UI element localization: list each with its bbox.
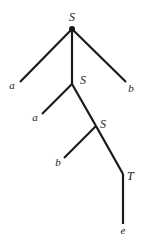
node-label-s1: S bbox=[69, 10, 75, 24]
edge-s2-s3 bbox=[72, 84, 96, 126]
node-label-e1: e bbox=[121, 224, 126, 236]
edge-s1-a1 bbox=[20, 29, 72, 82]
node-label-b2: b bbox=[55, 156, 61, 168]
node-label-a2: a bbox=[32, 111, 38, 123]
node-label-t1: T bbox=[127, 169, 135, 183]
edge-s2-a2 bbox=[42, 84, 72, 114]
edge-s3-b2 bbox=[64, 126, 96, 158]
root-dot bbox=[69, 26, 75, 32]
edge-s3-t1 bbox=[96, 126, 123, 174]
node-label-s3: S bbox=[100, 117, 106, 131]
root-node-dot bbox=[69, 26, 75, 32]
tree-edges bbox=[20, 29, 126, 224]
parse-tree-diagram: SaSbaSbTe bbox=[0, 0, 145, 242]
node-label-a1: a bbox=[9, 79, 15, 91]
node-label-s2: S bbox=[80, 73, 86, 87]
node-label-b1: b bbox=[128, 82, 134, 94]
